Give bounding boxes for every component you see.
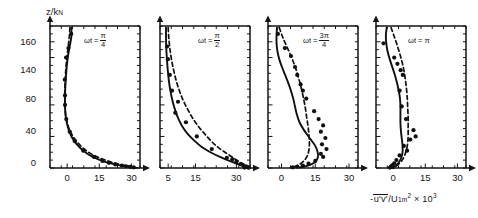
data-point — [276, 32, 280, 36]
data-point — [210, 147, 214, 151]
solid-model-curve — [65, 28, 136, 168]
y-tick-label-0: 0 — [31, 157, 36, 168]
panel-1-omega: ωt — [84, 36, 92, 45]
data-point — [405, 149, 409, 153]
x-axis-title-subscript: 1m — [398, 196, 408, 203]
x-axis-title-times-exponent: 3 — [433, 192, 437, 199]
x-tick-label: 5 — [166, 172, 171, 183]
data-point — [166, 57, 170, 61]
data-point — [124, 164, 128, 168]
data-point — [170, 89, 174, 93]
data-point — [168, 73, 172, 77]
panel-2-fraction: π 2 — [214, 32, 219, 48]
data-point — [397, 89, 401, 93]
data-point — [165, 44, 169, 48]
data-point — [312, 109, 316, 113]
data-point — [323, 136, 327, 140]
x-tick-label: 15 — [190, 172, 201, 183]
x-tick-label: 15 — [420, 172, 431, 183]
data-point — [301, 163, 305, 167]
y-tick-label-40: 40 — [25, 125, 36, 136]
data-point — [234, 160, 238, 164]
panel-4-omega: ωt — [408, 36, 416, 45]
y-axis-ticklabels-svg: 160 140 80 40 0 — [0, 0, 40, 218]
panel-2-omega: ωt — [198, 36, 206, 45]
x-tick-label: 0 — [390, 172, 395, 183]
x-axis-title-overbar: u'v' — [373, 194, 388, 205]
panel-3-numerator: 3π — [319, 32, 328, 40]
panel-1-fraction: π 4 — [100, 32, 105, 48]
data-point — [401, 73, 405, 77]
data-point — [64, 55, 68, 59]
data-point — [295, 73, 299, 77]
data-point — [176, 100, 180, 104]
data-point — [131, 165, 135, 169]
data-point — [73, 139, 77, 143]
data-point — [113, 162, 117, 166]
data-point — [225, 156, 229, 160]
x-tick-label: 30 — [344, 172, 355, 183]
panel-1-equals: = — [94, 36, 98, 45]
data-point — [63, 93, 67, 97]
x-tick-label: 0 — [64, 172, 69, 183]
data-point — [408, 138, 412, 142]
data-point — [63, 103, 67, 107]
panel-4: 01530 — [366, 0, 478, 218]
data-point — [92, 155, 96, 159]
data-point — [392, 55, 396, 59]
panel-3-denominator: 4 — [319, 40, 328, 49]
data-point — [399, 68, 403, 72]
panel-2-numerator: π — [214, 32, 219, 40]
data-point — [388, 166, 392, 170]
x-axis-title-exponent: 2 — [407, 192, 411, 199]
panel-3-omega: ωt — [303, 36, 311, 45]
data-point — [295, 164, 299, 168]
data-point — [293, 65, 297, 69]
solid-model-curve — [166, 28, 247, 168]
data-point — [242, 165, 246, 169]
x-tick-label: 30 — [126, 172, 137, 183]
data-point — [184, 120, 188, 124]
panel-1-denominator: 4 — [100, 40, 105, 49]
x-tick-label: 15 — [94, 172, 105, 183]
panel-4-phase-label: ωt = π — [408, 36, 430, 45]
y-tick-label-80: 80 — [25, 93, 36, 104]
panel-4-plot: 01530 — [366, 0, 478, 218]
panel-4-pi: π — [424, 36, 429, 45]
data-point — [321, 155, 325, 159]
y-tick-label-160: 160 — [20, 36, 36, 47]
data-point — [69, 32, 73, 36]
data-point — [173, 111, 177, 115]
x-tick-label: 30 — [452, 172, 463, 183]
panel-4-equals: = — [418, 36, 422, 45]
data-point — [230, 157, 234, 161]
x-tick-label: 0 — [279, 172, 284, 183]
data-point — [81, 149, 85, 153]
data-point — [400, 104, 404, 108]
data-point — [306, 162, 310, 166]
dashed-model-curve — [65, 28, 137, 168]
figure-root: 160 140 80 40 0 z/kN 01530 ωt = π 4 5153… — [0, 0, 478, 218]
y-axis-group: 160 140 80 40 0 — [0, 0, 40, 218]
data-point — [397, 153, 401, 157]
data-point — [120, 163, 124, 167]
data-point — [304, 96, 308, 100]
panel-1-numerator: π — [100, 32, 105, 40]
data-point — [283, 46, 287, 50]
data-point — [64, 117, 68, 121]
dashed-model-curve — [168, 28, 247, 167]
data-point — [395, 62, 399, 66]
data-point — [321, 123, 325, 127]
data-point — [68, 130, 72, 134]
data-point — [107, 161, 111, 165]
data-point — [402, 144, 406, 148]
panel-1-phase-label: ωt = π 4 — [84, 32, 106, 48]
data-point — [411, 128, 415, 132]
data-point — [317, 117, 321, 121]
x-axis-title-mid: /U — [388, 194, 398, 204]
data-point — [299, 82, 303, 86]
panel-3-equals: = — [313, 36, 317, 45]
data-point — [320, 142, 324, 146]
solid-model-curve — [276, 28, 318, 168]
data-point — [100, 159, 104, 163]
